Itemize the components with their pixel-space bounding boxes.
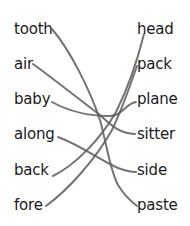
line-fore-pack bbox=[46, 66, 137, 206]
match-lines bbox=[0, 0, 190, 226]
line-air-sitter bbox=[33, 64, 135, 134]
line-tooth-paste bbox=[52, 29, 137, 206]
